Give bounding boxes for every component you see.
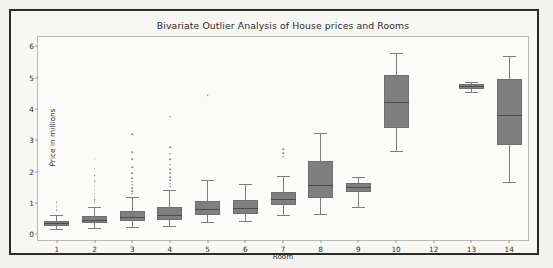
x-tick-mark bbox=[56, 240, 57, 243]
cap-upper bbox=[503, 56, 516, 57]
y-tick-label: 6 bbox=[29, 42, 34, 51]
box-plot-item bbox=[38, 37, 528, 240]
x-tick-mark bbox=[320, 240, 321, 243]
plot-area: Price in millions 0123456 12345678910121… bbox=[37, 36, 529, 241]
median-line bbox=[497, 115, 522, 116]
x-tick-mark bbox=[358, 240, 359, 243]
x-tick-mark bbox=[433, 240, 434, 243]
y-tick-label: 2 bbox=[29, 167, 34, 176]
y-tick-label: 5 bbox=[29, 73, 34, 82]
x-tick-mark bbox=[245, 240, 246, 243]
y-tick-label: 3 bbox=[29, 136, 34, 145]
x-tick-mark bbox=[94, 240, 95, 243]
x-tick-mark bbox=[471, 240, 472, 243]
figure-panel: Bivariate Outlier Analysis of House pric… bbox=[9, 9, 539, 255]
x-tick-mark bbox=[132, 240, 133, 243]
whisker-lower bbox=[509, 145, 510, 182]
chart-title: Bivariate Outlier Analysis of House pric… bbox=[37, 20, 529, 31]
y-tick-label: 1 bbox=[29, 199, 34, 208]
y-tick-label: 0 bbox=[29, 230, 34, 239]
x-tick-mark bbox=[396, 240, 397, 243]
x-tick-mark bbox=[169, 240, 170, 243]
whisker-upper bbox=[509, 56, 510, 79]
cap-lower bbox=[503, 182, 516, 183]
y-tick-label: 4 bbox=[29, 105, 34, 114]
x-tick-mark bbox=[207, 240, 208, 243]
box-iqr bbox=[497, 79, 522, 144]
x-tick-mark bbox=[283, 240, 284, 243]
x-tick-mark bbox=[509, 240, 510, 243]
x-axis-label: Room bbox=[37, 252, 529, 261]
